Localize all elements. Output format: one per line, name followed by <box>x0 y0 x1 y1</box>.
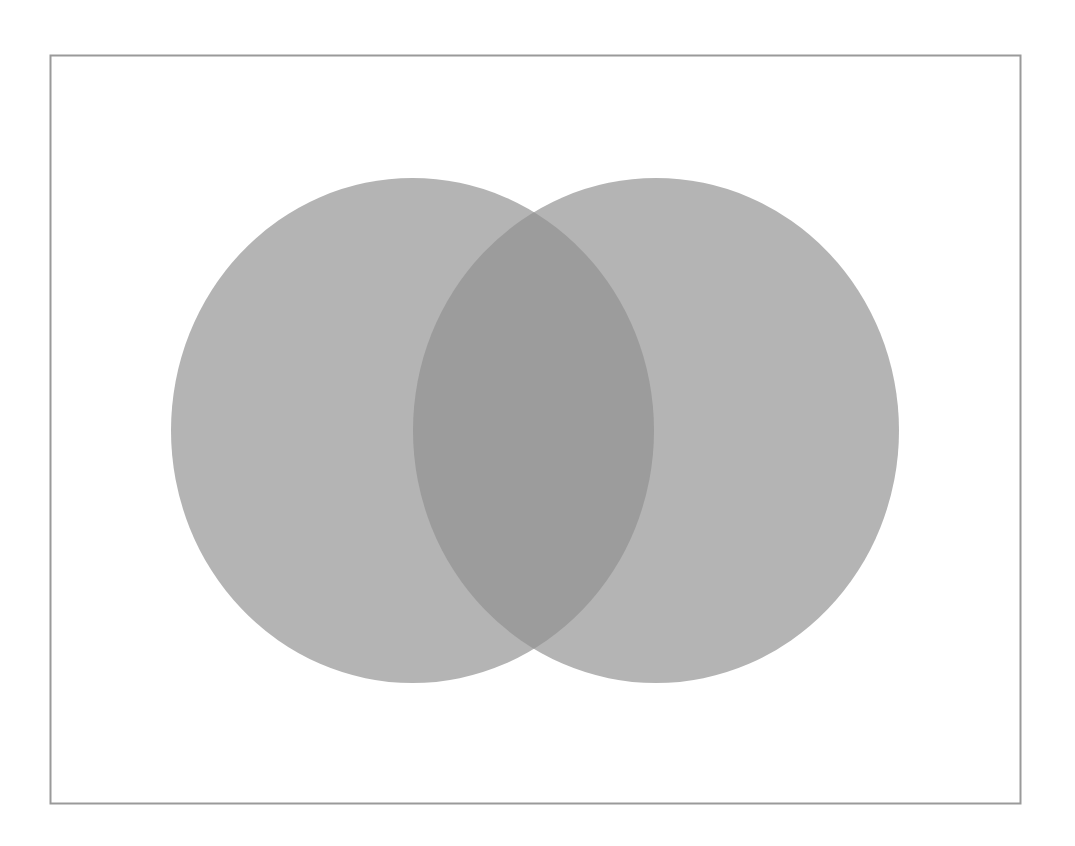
venn-diagram <box>0 0 1075 846</box>
venn-diagram-canvas <box>0 0 1075 846</box>
